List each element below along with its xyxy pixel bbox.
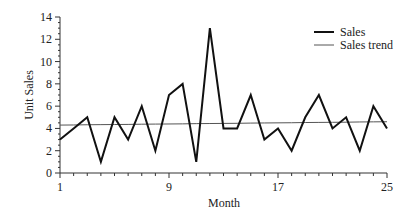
x-axis: 191725: [57, 173, 393, 194]
y-tick-label: 4: [46, 121, 52, 135]
x-tick-label: 9: [166, 180, 172, 194]
sales-line: [60, 28, 387, 162]
y-tick-label: 14: [40, 10, 52, 24]
y-axis-label: Unit Sales: [22, 70, 36, 120]
x-tick-label: 1: [57, 180, 63, 194]
legend-sales-label: Sales: [340, 25, 366, 39]
y-tick-label: 12: [40, 32, 52, 46]
y-tick-label: 10: [40, 55, 52, 69]
legend: Sales Sales trend: [314, 25, 393, 52]
line-chart: 02468101214 191725 Unit Sales Month Sale…: [0, 0, 413, 220]
x-tick-label: 25: [381, 180, 393, 194]
x-tick-label: 17: [272, 180, 284, 194]
y-tick-label: 0: [46, 166, 52, 180]
y-tick-label: 2: [46, 144, 52, 158]
y-tick-label: 8: [46, 77, 52, 91]
y-axis: 02468101214: [40, 10, 60, 180]
x-axis-label: Month: [208, 196, 240, 210]
legend-trend-label: Sales trend: [340, 38, 393, 52]
y-tick-label: 6: [46, 99, 52, 113]
